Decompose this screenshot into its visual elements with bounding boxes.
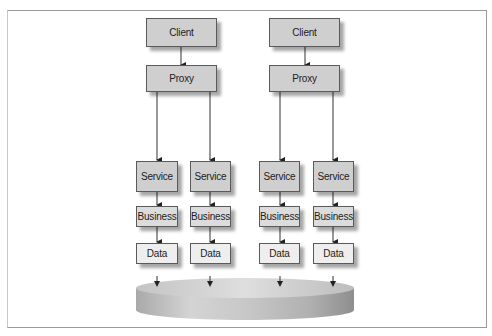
business-box: Business [190,206,231,227]
data-box: Data [259,243,300,264]
data-box: Data [313,243,354,264]
data-box: Data [136,243,178,264]
database-disk [134,276,356,322]
data-box: Data [190,243,231,264]
business-box: Business [136,206,178,227]
service-box: Service [190,161,231,192]
client-box: Client [146,18,217,47]
business-box: Business [313,206,354,227]
proxy-box: Proxy [269,65,340,92]
service-box: Service [136,161,178,192]
client-box: Client [269,18,340,47]
service-box: Service [259,161,300,192]
proxy-box: Proxy [146,65,217,92]
business-box: Business [259,206,300,227]
service-box: Service [313,161,354,192]
